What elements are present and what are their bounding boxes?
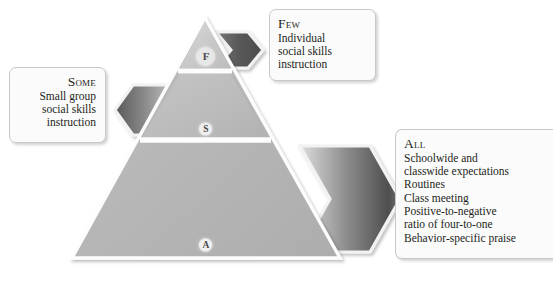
callout-few-heading: Few <box>278 16 367 32</box>
callout-all-line-4: Class meeting <box>404 192 545 205</box>
callout-few-line-3: instruction <box>278 58 367 71</box>
callout-some-line-1: Small group <box>18 90 96 103</box>
callout-all-line-3: Routines <box>404 178 545 191</box>
callout-few[interactable]: Few Individual social skills instruction <box>269 9 376 81</box>
callout-some-line-2: social skills <box>18 103 96 116</box>
badge-all-circle <box>199 239 212 252</box>
badge-few-circle <box>196 47 214 65</box>
callout-some-line-3: instruction <box>18 116 96 129</box>
callout-all-line-2: classwide expectations <box>404 165 545 178</box>
callout-some[interactable]: Some Small group social skills instructi… <box>9 67 106 143</box>
callout-all-line-1: Schoolwide and <box>404 152 545 165</box>
callout-all-line-7: Behavior-specific praise <box>404 232 545 245</box>
callout-all-heading: All <box>404 136 545 152</box>
callout-all-line-6: ratio of four-to-one <box>404 218 545 231</box>
callout-all[interactable]: All Schoolwide and classwide expectation… <box>395 129 553 259</box>
callout-few-line-2: social skills <box>278 45 367 58</box>
figure-canvas: F S A Few Individual social skills instr… <box>0 0 553 284</box>
callout-few-line-1: Individual <box>278 32 367 45</box>
callout-all-line-5: Positive-to-negative <box>404 205 545 218</box>
badge-some-circle <box>199 123 212 136</box>
callout-some-heading: Some <box>18 74 96 90</box>
